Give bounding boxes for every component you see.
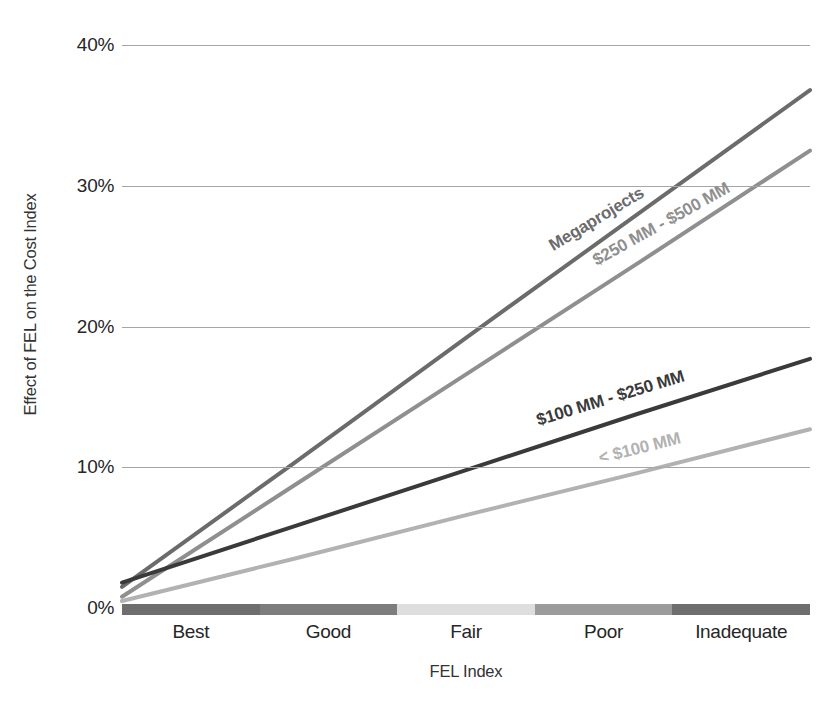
gridline [122, 45, 810, 46]
y-axis-tick-label: 10% [58, 456, 114, 478]
x-axis-tick-labels: BestGoodFairPoorInadequate [122, 621, 810, 649]
y-axis-tick-label: 40% [58, 34, 114, 56]
plot-area [122, 45, 810, 608]
y-axis-tick-label: 30% [58, 175, 114, 197]
fel-cost-index-line-chart: Effect of FEL on the Cost Index 0%10%20%… [0, 0, 837, 712]
x-axis-tick-label: Inadequate [672, 621, 810, 649]
x-axis-band-segment [397, 604, 535, 615]
x-axis-band-segment [535, 604, 673, 615]
y-axis-title-text: Effect of FEL on the Cost Index [21, 193, 40, 415]
series-line [122, 429, 810, 601]
series-line [122, 151, 810, 597]
gridline [122, 467, 810, 468]
y-axis-tick-labels: 0%10%20%30%40% [52, 0, 114, 712]
x-axis-tick-label: Fair [397, 621, 535, 649]
y-axis-tick-label: 0% [58, 597, 114, 619]
gridline [122, 327, 810, 328]
x-axis-tick-label: Good [260, 621, 398, 649]
x-axis-band-segment [122, 604, 260, 615]
series-line [122, 90, 810, 587]
y-axis-title: Effect of FEL on the Cost Index [10, 0, 50, 608]
x-axis-tick-label: Poor [535, 621, 673, 649]
x-axis-tick-label: Best [122, 621, 260, 649]
x-axis-title: FEL Index [122, 662, 810, 681]
x-axis-band-segment [672, 604, 810, 615]
x-axis-title-text: FEL Index [430, 662, 503, 680]
x-axis-band-segment [260, 604, 398, 615]
y-axis-tick-label: 20% [58, 316, 114, 338]
series-line [122, 359, 810, 583]
x-axis-category-band [122, 604, 810, 615]
